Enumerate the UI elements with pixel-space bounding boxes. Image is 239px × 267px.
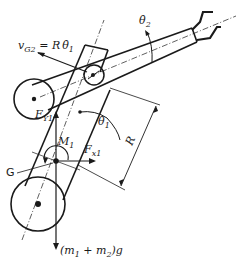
theta2-label: θ̇2 (139, 14, 151, 29)
g-label: G (6, 166, 15, 179)
r-label: R (122, 134, 138, 148)
gripper (192, 12, 221, 40)
m1-label: M1 (57, 135, 74, 150)
weight-label: (m1 + m2)g (60, 244, 123, 259)
elbow-joint (84, 65, 104, 85)
base-disk (11, 177, 65, 231)
vg2-label: vG2 = Rθ̇1 (18, 39, 74, 54)
theta2-arc (145, 30, 152, 63)
fx1-label: Fx1 (83, 143, 101, 158)
r-dimension (78, 88, 160, 190)
robot-arm-diagram: vG2 = Rθ̇1 θ̇2 θ̇1 FY1 Fx1 M1 G R (m1 + … (0, 0, 239, 267)
velocity-vector (37, 52, 87, 72)
theta1-label: θ̇1 (98, 115, 110, 130)
